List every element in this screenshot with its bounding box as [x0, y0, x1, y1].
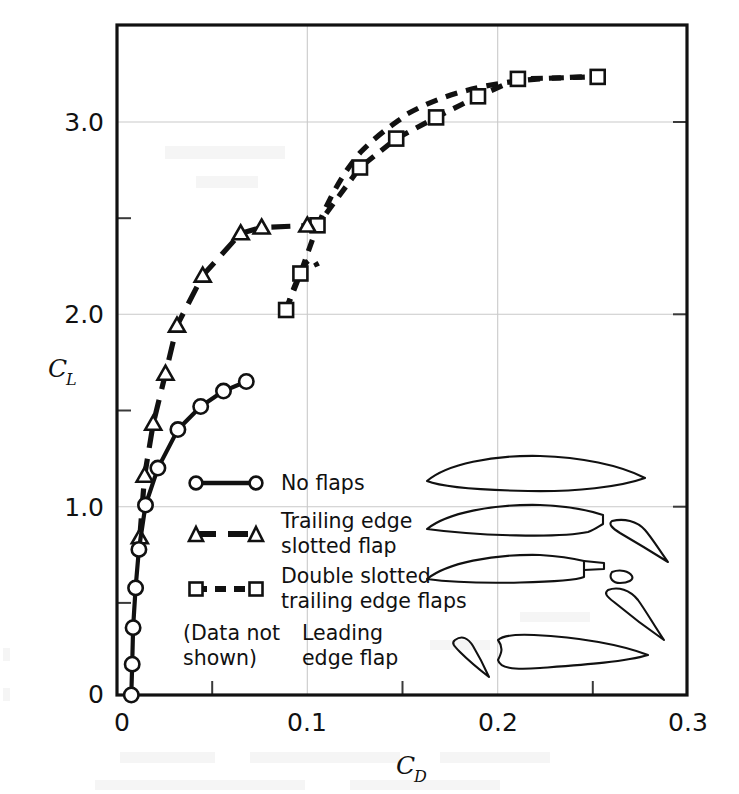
x-tick-label-0: 0 — [114, 708, 130, 737]
y-axis-title-main: C — [48, 354, 67, 383]
legend-label-trailing-edge-2: slotted flap — [281, 534, 397, 558]
x-tick-label-3: 0.3 — [668, 708, 708, 737]
y-axis-title-sub: L — [65, 370, 77, 389]
legend-note-line-1: (Data not — [183, 621, 280, 645]
legend-label-no-flaps: No flaps — [281, 471, 365, 495]
legend-label-double-slotted-1: Double slotted — [281, 564, 431, 588]
legend-marker-circle-left — [190, 477, 203, 490]
legend-marker-circle-right — [250, 477, 263, 490]
x-tick-label-1: 0.1 — [287, 708, 327, 737]
x-tick-label-2: 0.2 — [478, 708, 518, 737]
figure-root: 0 1.0 2.0 3.0 0 0.1 0.2 0.3 C L C D — [0, 0, 739, 794]
x-axis-title-sub: D — [413, 767, 427, 786]
cl-vs-cd-chart: 0 1.0 2.0 3.0 0 0.1 0.2 0.3 C L C D — [0, 0, 739, 794]
legend-label-leading-edge-1: Leading — [302, 621, 383, 645]
paper-background — [0, 0, 739, 794]
y-tick-label-2: 2.0 — [64, 300, 104, 329]
legend-note-line-2: shown) — [183, 646, 257, 670]
y-tick-label-0: 0 — [88, 680, 104, 709]
legend-marker-square-left — [190, 583, 203, 596]
x-axis-title-main: C — [396, 751, 415, 780]
legend-marker-square-right — [250, 583, 263, 596]
y-tick-label-1: 1.0 — [64, 493, 104, 522]
legend-label-double-slotted-2: trailing edge flaps — [281, 589, 467, 613]
legend-label-trailing-edge-1: Trailing edge — [280, 509, 412, 533]
y-tick-label-3: 3.0 — [64, 108, 104, 137]
legend-label-leading-edge-2: edge flap — [302, 646, 398, 670]
